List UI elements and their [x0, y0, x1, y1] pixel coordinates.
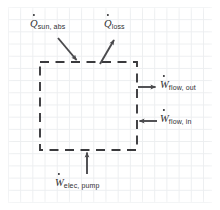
- subscript-flow-in: flow, in: [169, 118, 192, 125]
- label-w-flow-out: Wflow, out: [160, 80, 196, 91]
- label-q-loss: Qloss: [104, 19, 125, 30]
- diagram-canvas: Qsun, abs Qloss Wflow, out Wflow, in Wel…: [0, 0, 220, 210]
- overdot-icon: [33, 14, 35, 16]
- arrow-q-sun-abs: [58, 38, 77, 60]
- symbol-q-dot: Q: [30, 18, 38, 29]
- dashed-control-volume-boundary: [40, 62, 137, 150]
- subscript-sun-abs: sun, abs: [38, 23, 66, 30]
- symbol-w-dot: W: [55, 177, 64, 188]
- label-w-flow-in: Wflow, in: [160, 114, 191, 125]
- subscript-loss: loss: [112, 23, 125, 30]
- symbol-w-dot: W: [160, 113, 169, 124]
- overdot-icon: [107, 14, 109, 16]
- arrow-q-loss: [100, 40, 114, 64]
- symbol-q-dot: Q: [104, 18, 112, 29]
- diagram-vector-layer: [0, 0, 220, 210]
- subscript-flow-out: flow, out: [169, 84, 196, 91]
- overdot-icon: [58, 173, 60, 175]
- label-w-elec-pump: Welec, pump: [55, 178, 100, 189]
- subscript-elec-pump: elec, pump: [64, 182, 100, 189]
- label-q-sun-abs: Qsun, abs: [30, 19, 65, 30]
- symbol-w-dot: W: [160, 79, 169, 90]
- overdot-icon: [163, 75, 165, 77]
- overdot-icon: [163, 109, 165, 111]
